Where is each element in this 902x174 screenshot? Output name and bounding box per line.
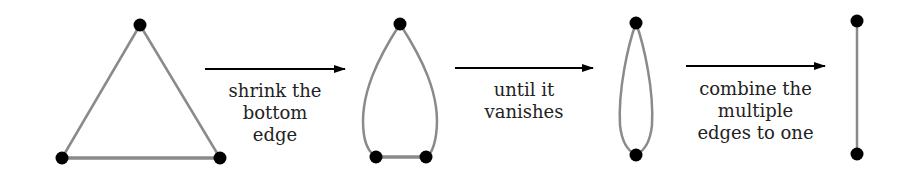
- vertex: [134, 19, 147, 32]
- label-line: multiple: [686, 100, 825, 122]
- edge: [363, 24, 400, 157]
- label-line: vanishes: [455, 101, 593, 123]
- label-line: shrink the: [205, 80, 345, 102]
- label-line: bottom: [205, 102, 345, 124]
- vertex: [370, 151, 383, 164]
- vertex: [630, 17, 643, 30]
- label-line: combine the: [686, 78, 825, 100]
- graph-shrunk-bottom: [363, 24, 437, 157]
- edge: [636, 23, 652, 155]
- edge: [620, 23, 636, 155]
- diagram: shrink the bottom edge until it vanishes…: [0, 0, 902, 174]
- vertex: [420, 151, 433, 164]
- vertex: [630, 149, 643, 162]
- graph-triangle: [62, 25, 220, 158]
- vertex: [851, 15, 864, 28]
- vertex: [56, 152, 69, 165]
- vertex: [214, 152, 227, 165]
- edge: [62, 25, 140, 158]
- graph-double-edge: [620, 23, 653, 155]
- vertex: [394, 18, 407, 31]
- edge: [400, 24, 437, 157]
- step-label-3: combine the multiple edges to one: [686, 78, 825, 144]
- step-label-2: until it vanishes: [455, 79, 593, 123]
- step-label-1: shrink the bottom edge: [205, 80, 345, 146]
- label-line: until it: [455, 79, 593, 101]
- vertex: [851, 148, 864, 161]
- label-line: edges to one: [686, 122, 825, 144]
- label-line: edge: [205, 124, 345, 146]
